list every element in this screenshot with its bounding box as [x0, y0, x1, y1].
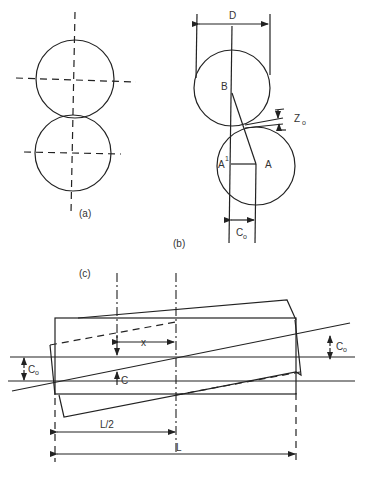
offset-Zo-label: Z: [294, 113, 300, 124]
offset-Zo-sub: o: [302, 119, 306, 126]
dimension-Co-right-sub: o: [343, 346, 347, 353]
upper-horizontal-centerline: [16, 78, 136, 82]
skewed-roll-lower-outline: [59, 320, 301, 417]
skewed-roll-upper-outline: [78, 300, 296, 320]
dimension-half-L-label: L/2: [100, 419, 114, 430]
roll-geometry-diagram: (a) D B A A 1 Z o C o (b) (c): [0, 0, 367, 478]
center-connecting-line: [232, 93, 256, 164]
dimension-Co-left-sub: o: [35, 369, 39, 376]
panel-c: (c) x C C o C o: [8, 268, 355, 465]
dimension-C-label: C: [121, 375, 128, 386]
point-A-label: A: [265, 159, 272, 170]
dimension-D-label: D: [229, 10, 236, 21]
zo-tick-upper: [275, 109, 284, 110]
upper-roll-centerline: [229, 26, 232, 243]
skewed-roll-left-edge-upper: [50, 345, 55, 395]
point-B-label: B: [221, 81, 228, 92]
point-A-prime-mark: 1: [225, 155, 229, 162]
dimension-extension-left: [196, 14, 197, 78]
panel-c-label: (c): [79, 268, 91, 279]
point-A-prime-label: A: [218, 159, 225, 170]
lower-roll-centerline: [255, 164, 256, 243]
panel-a-label: (a): [79, 208, 91, 219]
dimension-x-label: x: [141, 337, 146, 348]
panel-b-label: (b): [173, 238, 185, 249]
panel-a: (a): [16, 12, 136, 219]
panel-b: D B A A 1 Z o C o (b): [173, 10, 306, 249]
vertical-centerline: [71, 12, 75, 213]
upper-roll-circle: [36, 40, 114, 118]
lower-horizontal-centerline: [24, 152, 121, 154]
offset-Co-sub-b: o: [243, 233, 247, 240]
dimension-L-label: L: [176, 442, 182, 453]
skewed-roll-hidden-edge-right: [176, 372, 300, 395]
